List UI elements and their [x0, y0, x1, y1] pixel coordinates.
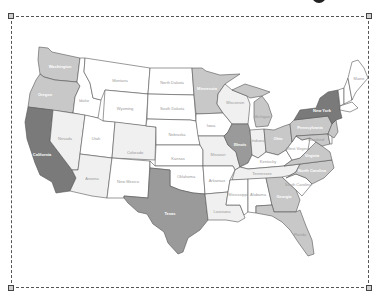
- svg-text:Kansas: Kansas: [171, 156, 184, 161]
- svg-text:Colorado: Colorado: [127, 150, 144, 155]
- svg-text:South Carolina: South Carolina: [285, 182, 312, 187]
- svg-text:Georgia: Georgia: [276, 194, 292, 199]
- svg-text:Iowa: Iowa: [207, 123, 216, 128]
- svg-text:Utah: Utah: [92, 136, 100, 141]
- svg-text:Texas: Texas: [164, 211, 176, 216]
- state-maine[interactable]: Maine: [348, 60, 368, 100]
- svg-text:Montana: Montana: [112, 78, 128, 83]
- svg-text:Oregon: Oregon: [38, 92, 53, 97]
- svg-text:Oklahoma: Oklahoma: [177, 174, 196, 179]
- state-south-dakota[interactable]: South Dakota: [147, 94, 196, 121]
- state-colorado[interactable]: Colorado: [112, 122, 156, 160]
- svg-text:South Dakota: South Dakota: [160, 106, 185, 111]
- svg-text:Maryland: Maryland: [308, 137, 324, 142]
- svg-text:North Carolina: North Carolina: [298, 168, 327, 173]
- svg-text:Idaho: Idaho: [79, 98, 90, 103]
- state-kansas[interactable]: Kansas: [155, 145, 203, 166]
- state-new-mexico[interactable]: New Mexico: [107, 158, 150, 198]
- svg-text:West Virginia: West Virginia: [286, 146, 310, 151]
- svg-text:Missouri: Missouri: [211, 152, 226, 157]
- svg-text:Mississippi: Mississippi: [228, 192, 247, 197]
- svg-text:Wyoming: Wyoming: [117, 106, 134, 111]
- svg-text:Kentucky: Kentucky: [260, 159, 276, 164]
- svg-text:Nevada: Nevada: [58, 136, 73, 141]
- svg-text:Tennessee: Tennessee: [252, 171, 272, 176]
- svg-text:Pennsylvania: Pennsylvania: [297, 125, 323, 130]
- us-map: Washington Oregon California Idaho Nevad…: [0, 0, 379, 296]
- svg-text:Nebraska: Nebraska: [168, 132, 186, 137]
- svg-text:Virginia: Virginia: [305, 153, 320, 158]
- state-wyoming[interactable]: Wyoming: [103, 90, 148, 126]
- state-washington[interactable]: Washington: [38, 47, 80, 82]
- svg-text:New York: New York: [313, 108, 332, 113]
- svg-text:Maine: Maine: [354, 76, 366, 81]
- svg-text:Wisconsin: Wisconsin: [226, 100, 244, 105]
- svg-text:New Mexico: New Mexico: [117, 179, 140, 184]
- svg-text:California: California: [33, 152, 52, 157]
- svg-text:Alabama: Alabama: [250, 192, 267, 197]
- svg-text:North Dakota: North Dakota: [160, 80, 184, 85]
- svg-text:Arkansas: Arkansas: [209, 178, 226, 183]
- state-utah[interactable]: Utah: [80, 115, 115, 158]
- svg-text:Washington: Washington: [49, 64, 72, 69]
- svg-text:Ohio: Ohio: [273, 136, 283, 141]
- svg-text:Louisiana: Louisiana: [213, 209, 231, 214]
- state-florida[interactable]: Florida: [256, 205, 314, 256]
- svg-text:Michigan: Michigan: [254, 114, 270, 119]
- svg-text:Florida: Florida: [294, 232, 307, 237]
- svg-text:Indiana: Indiana: [251, 138, 265, 143]
- svg-text:Illinois: Illinois: [234, 142, 247, 147]
- state-north-dakota[interactable]: North Dakota: [148, 68, 194, 95]
- svg-text:Arizona: Arizona: [85, 176, 99, 181]
- svg-text:Minnesota: Minnesota: [197, 86, 218, 91]
